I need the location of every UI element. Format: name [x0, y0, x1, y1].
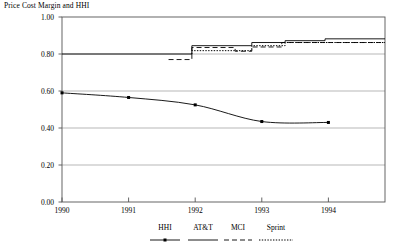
- data-point-marker: [260, 120, 263, 123]
- y-tick-label: 0.60: [41, 87, 54, 96]
- x-tick-label: 1993: [254, 206, 269, 215]
- y-tick-label: 0.40: [41, 124, 54, 133]
- y-tick-label: 0.20: [41, 161, 54, 170]
- legend-marker-hhi: [164, 239, 167, 242]
- y-axis-tick-labels: 0.000.200.400.600.801.00: [41, 13, 62, 207]
- chart-plot: 0.000.200.400.600.801.00 199019911992199…: [0, 0, 397, 249]
- chart-legend: HHIAT&TMCISprint: [150, 223, 293, 242]
- data-point-marker: [194, 103, 197, 106]
- y-tick-label: 1.00: [41, 13, 54, 22]
- data-point-marker: [61, 91, 64, 94]
- legend-label-mci: MCI: [231, 223, 246, 232]
- x-tick-label: 1992: [188, 206, 203, 215]
- x-tick-label: 1990: [55, 206, 70, 215]
- data-point-marker: [327, 121, 330, 124]
- y-tick-label: 0.80: [41, 50, 54, 59]
- data-point-marker: [127, 96, 130, 99]
- chart-container: Price Cost Margin and HHI 0.000.200.400.…: [0, 0, 397, 249]
- x-tick-label: 1994: [321, 206, 336, 215]
- legend-label-hhi: HHI: [158, 223, 172, 232]
- x-tick-label: 1991: [121, 206, 136, 215]
- legend-label-at-t: AT&T: [193, 223, 213, 232]
- y-tick-label: 0.00: [41, 198, 54, 207]
- legend-label-sprint: Sprint: [267, 223, 286, 232]
- plot-background: [62, 17, 385, 202]
